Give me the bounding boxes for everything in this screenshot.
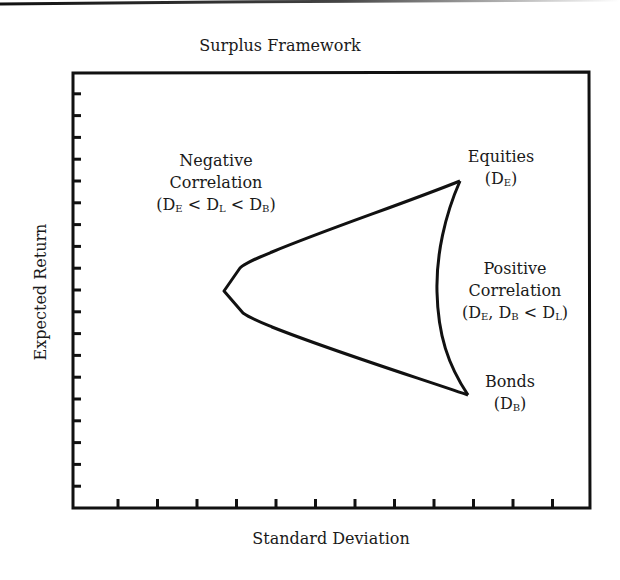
bonds-duration: (DB) xyxy=(470,393,550,419)
negative-correlation-label: Negative Correlation (DE < DL < DB) xyxy=(131,150,301,220)
label-line: Equities xyxy=(456,146,546,168)
equities-duration: (DE) xyxy=(456,168,546,194)
label-line: Positive xyxy=(440,258,590,280)
label-line: Correlation xyxy=(131,172,301,194)
bonds-label: Bonds (DB) xyxy=(470,371,550,419)
positive-correlation-label: Positive Correlation (DE, DB < DL) xyxy=(440,258,590,328)
duration-inequality: (DE, DB < DL) xyxy=(440,302,590,328)
label-line: Negative xyxy=(131,150,301,172)
equities-label: Equities (DE) xyxy=(456,146,546,194)
label-line: Correlation xyxy=(440,280,590,302)
x-axis-label: Standard Deviation xyxy=(72,529,590,548)
y-axis-label: Expected Return xyxy=(31,224,50,361)
duration-inequality: (DE < DL < DB) xyxy=(131,194,301,220)
label-line: Bonds xyxy=(470,371,550,393)
